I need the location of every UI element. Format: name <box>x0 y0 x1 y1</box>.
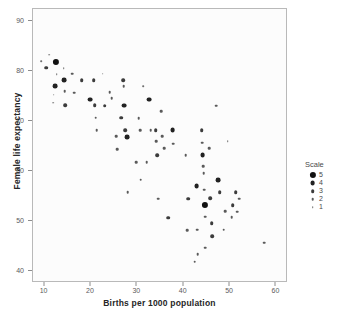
data-point <box>186 229 189 232</box>
x-axis-tick-label: 30 <box>132 287 140 294</box>
x-axis-tick <box>136 282 137 286</box>
legend-item[interactable]: 3 <box>304 187 349 195</box>
data-point <box>53 59 59 65</box>
scatter-chart: 102030405060 405060708090 Births per 100… <box>0 0 349 315</box>
data-point <box>62 77 67 82</box>
data-point <box>123 85 126 88</box>
data-point <box>227 140 229 142</box>
data-point <box>63 90 66 93</box>
data-point <box>200 128 204 132</box>
data-point <box>203 189 206 192</box>
x-axis-tick-label: 60 <box>272 287 280 294</box>
data-point <box>231 216 234 219</box>
y-axis-tick-label: 50 <box>16 216 24 223</box>
y-axis-tick <box>28 70 32 71</box>
data-point <box>88 97 93 102</box>
data-point <box>137 117 140 120</box>
data-point <box>160 110 163 113</box>
data-point <box>231 203 235 207</box>
data-point <box>224 210 227 213</box>
data-point <box>126 191 129 194</box>
data-point <box>202 165 205 168</box>
data-point <box>116 148 119 151</box>
data-point <box>200 153 205 158</box>
data-point <box>135 161 138 164</box>
legend-item-label: 5 <box>319 171 323 179</box>
data-point <box>108 91 111 94</box>
data-point <box>103 104 107 108</box>
legend-item[interactable]: 1 <box>304 203 349 211</box>
data-point <box>147 97 152 102</box>
data-point <box>111 97 114 100</box>
data-point <box>115 135 118 138</box>
data-point <box>139 179 142 182</box>
data-point <box>218 191 222 195</box>
y-axis-tick-label: 90 <box>16 17 24 24</box>
data-point <box>163 147 166 150</box>
data-point <box>238 198 241 201</box>
legend-marker-icon <box>308 195 317 203</box>
legend-marker-icon <box>308 203 317 211</box>
legend-item[interactable]: 4 <box>304 179 349 187</box>
data-point <box>93 103 97 107</box>
legend-item[interactable]: 5 <box>304 171 349 179</box>
data-point <box>143 85 145 87</box>
data-point <box>139 129 142 132</box>
legend-item-label: 1 <box>319 203 323 211</box>
x-axis-tick <box>275 282 276 286</box>
x-axis-tick-label: 20 <box>86 287 94 294</box>
x-axis-tick-label: 40 <box>179 287 187 294</box>
legend-marker-icon <box>308 171 317 179</box>
data-point <box>155 154 159 158</box>
x-axis-tick <box>43 282 44 286</box>
data-point <box>234 191 238 195</box>
data-point <box>53 102 55 104</box>
data-point <box>202 172 205 175</box>
legend-item-label: 2 <box>319 195 323 203</box>
x-axis-tick-label: 10 <box>40 287 48 294</box>
data-point <box>215 104 218 107</box>
data-point <box>41 61 43 63</box>
y-axis-title: Female life expectancy <box>12 66 22 216</box>
data-point <box>92 78 96 82</box>
data-point <box>201 141 204 144</box>
data-point <box>172 142 175 145</box>
legend-item-label: 4 <box>319 179 323 187</box>
y-axis-tick <box>28 120 32 121</box>
data-point <box>166 216 170 220</box>
x-axis-title: Births per 1000 population <box>32 298 287 308</box>
data-point <box>53 94 55 96</box>
data-point <box>204 246 207 249</box>
data-point <box>236 210 239 213</box>
legend-items: 54321 <box>304 171 349 211</box>
y-axis-tick <box>28 170 32 171</box>
data-point <box>119 116 123 120</box>
legend: Scale 54321 <box>304 160 349 211</box>
plot-frame <box>32 8 287 282</box>
data-point <box>184 154 187 157</box>
legend-item-label: 3 <box>319 187 323 195</box>
data-point <box>48 54 50 56</box>
x-axis-tick <box>182 282 183 286</box>
data-point <box>145 161 148 164</box>
data-point <box>123 128 127 132</box>
legend-marker-icon <box>308 179 317 187</box>
data-point <box>196 253 199 256</box>
data-point <box>211 234 215 238</box>
y-axis-tick <box>28 270 32 271</box>
data-point <box>222 228 225 231</box>
legend-title: Scale <box>304 160 349 169</box>
legend-item[interactable]: 2 <box>304 195 349 203</box>
y-axis-tick <box>28 20 32 21</box>
x-axis-tick-label: 50 <box>225 287 233 294</box>
data-point <box>216 177 221 182</box>
data-point <box>121 78 125 82</box>
legend-marker-icon <box>308 187 317 195</box>
data-point <box>194 183 199 188</box>
data-point <box>63 67 65 69</box>
data-point <box>102 73 104 75</box>
data-point <box>161 135 164 138</box>
data-point <box>208 147 211 150</box>
data-point <box>204 215 207 218</box>
data-point <box>122 103 127 108</box>
